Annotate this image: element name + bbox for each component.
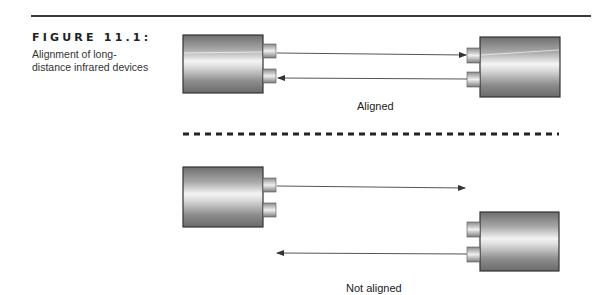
ir-device-right xyxy=(467,212,559,271)
ir-beam-arrow xyxy=(277,186,465,188)
alignment-diagram xyxy=(0,0,603,295)
ir-receiver-port xyxy=(263,69,276,83)
ir-receiver-port xyxy=(467,222,480,237)
ir-transmitter-port xyxy=(263,178,276,192)
ir-beam-arrow xyxy=(278,78,467,79)
ir-beam-arrow xyxy=(277,53,466,55)
not-aligned-label: Not aligned xyxy=(346,282,402,294)
aligned-label: Aligned xyxy=(357,100,394,112)
ir-transmitter-port xyxy=(263,44,276,58)
ir-transmitter-port xyxy=(467,247,480,262)
ir-device-left xyxy=(183,35,276,93)
ir-receiver-port xyxy=(467,48,480,63)
aligned-panel xyxy=(183,35,560,97)
ir-beam-arrow xyxy=(277,253,467,254)
ir-device-left xyxy=(183,167,276,227)
ir-device-right xyxy=(467,37,560,97)
ir-transmitter-port xyxy=(467,72,480,87)
not-aligned-panel xyxy=(183,167,559,271)
ir-receiver-port xyxy=(263,203,276,217)
